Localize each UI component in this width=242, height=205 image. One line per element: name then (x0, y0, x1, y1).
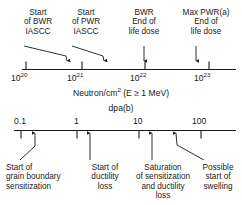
bottom-tick-label-10: 10 (133, 117, 143, 127)
tick-mantissa: 10 (130, 73, 140, 83)
label-line: Possible (194, 163, 242, 172)
label-line: Max PWR(a) (174, 8, 238, 17)
axis-title-suffix: (E ≥ 1 MeV) (121, 88, 169, 98)
top-marker-label-max-pwr-end-of-life: Max PWR(a) End of life dose (174, 8, 238, 36)
bottom-marker-label-ductility-loss: Start of ductility loss (80, 163, 130, 191)
label-line: swelling (194, 182, 242, 191)
axis-title-superscript: 2 (117, 86, 120, 93)
top-leader-pwr-iascc (72, 46, 104, 61)
top-axis (22, 62, 236, 70)
tick-mantissa: 10 (11, 73, 21, 83)
bottom-marker-label-grain-boundary-sensitization: Start of grain boundary sensitization (6, 163, 78, 191)
label-line: loss (80, 182, 130, 191)
top-marker-label-pwr-iascc: Start of PWR IASCC (58, 8, 114, 36)
label-line: of sensitization (130, 172, 196, 181)
axis-title-prefix: Neutron/cm (73, 88, 117, 98)
tick-exponent: 20 (21, 71, 28, 78)
irradiation-dose-scale-figure: Start of BWR IASCC Start of PWR IASCC BW… (0, 0, 242, 205)
label-line: Start (58, 8, 114, 17)
label-line: and ductility (130, 182, 196, 191)
bottom-leader-grain-boundary-sensitization (20, 133, 35, 160)
label-line: grain boundary (6, 172, 78, 181)
label-line: life dose (116, 27, 172, 36)
tick-mantissa: 10 (67, 73, 77, 83)
label-line: sensitization (6, 182, 78, 191)
bottom-tick-label-0-1: 0.1 (14, 117, 26, 127)
label-line: End of (174, 17, 238, 26)
bottom-tick-label-1: 1 (74, 117, 79, 127)
tick-mantissa: 10 (194, 73, 204, 83)
top-axis-title: Neutron/cm2 (E ≥ 1 MeV) (0, 88, 242, 99)
tick-exponent: 21 (77, 71, 84, 78)
tick-exponent: 23 (204, 71, 211, 78)
top-tick-label-1e20: 1020 (11, 74, 27, 84)
top-marker-label-bwr-end-of-life: BWR End of life dose (116, 8, 172, 36)
top-tick-label-1e23: 1023 (194, 74, 210, 84)
label-line: of PWR (58, 17, 114, 26)
label-line: ductility (80, 172, 130, 181)
bottom-leader-possible-swelling (176, 133, 204, 160)
bottom-axis-title: dpa(b) (0, 103, 242, 113)
bottom-axis (14, 131, 236, 139)
label-line: IASCC (58, 27, 114, 36)
label-line: life dose (174, 27, 238, 36)
label-line: Saturation (130, 163, 196, 172)
top-leader-bwr-iascc (24, 46, 67, 61)
label-line: Start of (80, 163, 130, 172)
top-tick-label-1e22: 1022 (130, 74, 146, 84)
label-line: Start of (6, 163, 78, 172)
label-line: loss (130, 191, 196, 200)
bottom-tick-label-100: 100 (192, 117, 206, 127)
bottom-marker-label-saturation-sensitization-ductility: Saturation of sensitization and ductilit… (130, 163, 196, 201)
bottom-marker-label-possible-swelling: Possible start of swelling (194, 163, 242, 191)
label-line: BWR (116, 8, 172, 17)
top-tick-label-1e21: 1021 (67, 74, 83, 84)
tick-exponent: 22 (140, 71, 147, 78)
label-line: start of (194, 172, 242, 181)
label-line: End of (116, 17, 172, 26)
